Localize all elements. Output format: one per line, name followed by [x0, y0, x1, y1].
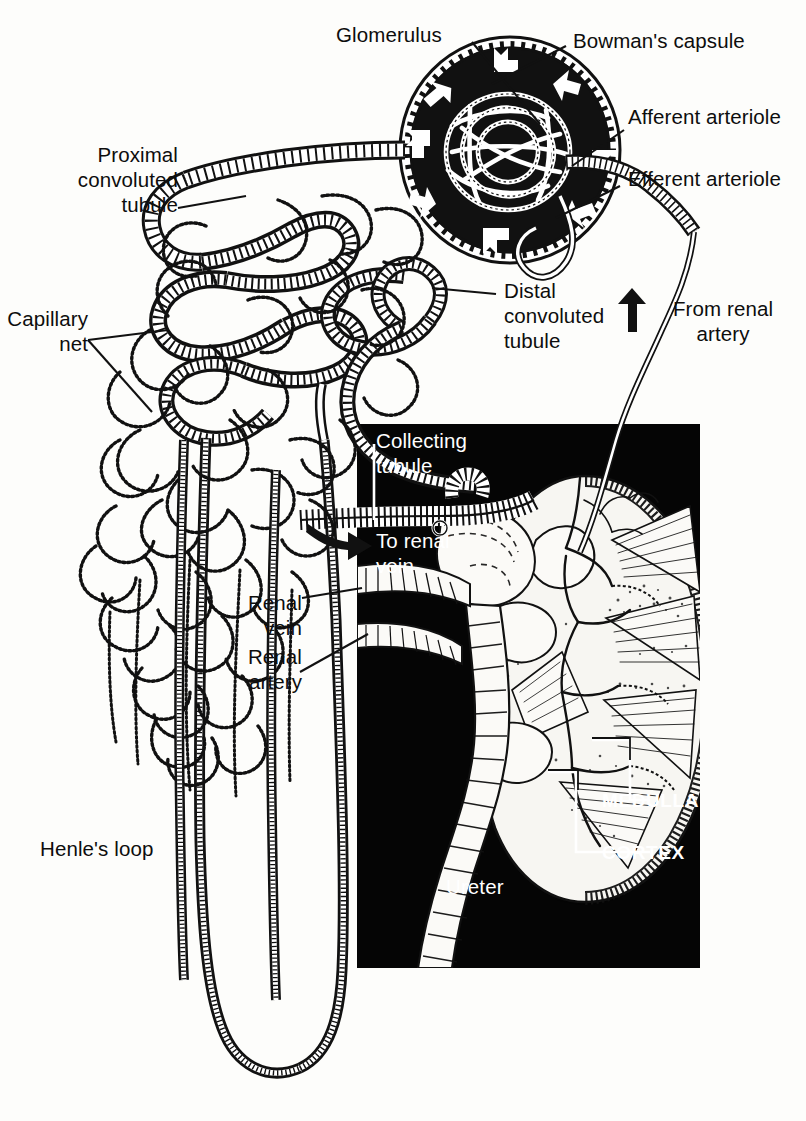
label-proximal-convoluted-tubule: Proximal convoluted tubule	[14, 142, 178, 217]
label-capillary-net: Capillary net	[2, 306, 88, 356]
leader-proximal-tubule	[178, 196, 246, 208]
label-collecting-tubule: Collecting tubule	[376, 428, 467, 478]
label-medulla: MEDULLA	[602, 788, 699, 813]
label-henles-loop: Henle's loop	[40, 836, 153, 861]
label-cortex: CORTEX	[602, 840, 685, 865]
label-glomerulus: Glomerulus	[336, 22, 442, 47]
glomerulus-and-capsule	[400, 37, 620, 263]
label-renal-vein: Renal vein	[206, 590, 302, 640]
label-bowmans-capsule: Bowman's capsule	[573, 28, 745, 53]
up-arrow-icon	[618, 288, 646, 332]
label-renal-artery: Renal artery	[206, 644, 302, 694]
nephron-figure: Glomerulus Bowman's capsule Afferent art…	[0, 0, 806, 1121]
label-afferent-arteriole: Afferent arteriole	[628, 104, 781, 129]
label-ureter: Ureter	[446, 874, 504, 899]
proximal-convoluted-tubule	[151, 150, 405, 439]
label-efferent-arteriole: Efferent arteriole	[628, 166, 781, 191]
label-distal-convoluted-tubule: Distal convoluted tubule	[504, 278, 604, 353]
peritubular-vessels	[179, 440, 276, 1000]
label-to-renal-vein: To renal vein	[376, 528, 450, 578]
label-from-renal-artery: From renal artery	[648, 296, 798, 346]
leader-capillary-net-b	[88, 340, 152, 412]
